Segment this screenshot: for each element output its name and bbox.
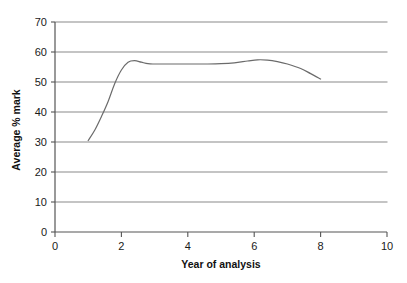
y-tick-labels: 010203040506070 bbox=[35, 16, 47, 238]
y-tick-label: 0 bbox=[41, 226, 47, 238]
y-tick-label: 60 bbox=[35, 46, 47, 58]
x-axis bbox=[55, 232, 387, 237]
x-axis-title: Year of analysis bbox=[181, 258, 261, 270]
y-tick-label: 10 bbox=[35, 196, 47, 208]
data-series-line bbox=[88, 60, 320, 141]
x-tick-label: 4 bbox=[185, 240, 191, 252]
chart-container: 010203040506070 0246810 Year of analysis… bbox=[0, 0, 407, 283]
x-tick-label: 6 bbox=[251, 240, 257, 252]
x-tick-labels: 0246810 bbox=[52, 240, 393, 252]
y-axis-title: Average % mark bbox=[10, 89, 22, 170]
x-tick-label: 0 bbox=[52, 240, 58, 252]
x-tick-label: 8 bbox=[318, 240, 324, 252]
series-line bbox=[88, 60, 320, 141]
y-tick-label: 30 bbox=[35, 136, 47, 148]
y-tick-label: 70 bbox=[35, 16, 47, 28]
y-tick-label: 40 bbox=[35, 106, 47, 118]
x-tick-label: 10 bbox=[381, 240, 393, 252]
y-axis bbox=[51, 22, 55, 232]
y-tick-label: 50 bbox=[35, 76, 47, 88]
x-tick-label: 2 bbox=[118, 240, 124, 252]
line-chart: 010203040506070 0246810 Year of analysis… bbox=[0, 0, 407, 283]
gridlines bbox=[55, 22, 388, 202]
y-tick-label: 20 bbox=[35, 166, 47, 178]
